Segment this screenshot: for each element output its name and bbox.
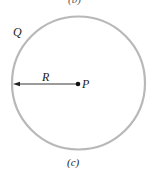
- figure-caption: (c): [67, 157, 79, 168]
- label-q: Q: [13, 26, 22, 38]
- diagram-canvas: [0, 0, 153, 177]
- center-point-dot: [76, 82, 81, 87]
- previous-caption: (b): [68, 0, 81, 5]
- label-r: R: [42, 71, 49, 83]
- radius-arrowhead-icon: [13, 82, 20, 86]
- circle-diagram-figure: (b) Q R P (c): [0, 0, 153, 177]
- label-p: P: [82, 78, 89, 90]
